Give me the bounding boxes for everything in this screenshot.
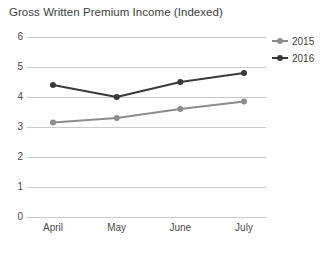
y-axis-tick-label: 4 <box>9 92 23 102</box>
x-axis-tick-label: May <box>107 222 126 234</box>
chart-container: Gross Written Premium Income (Indexed) 0… <box>0 0 322 254</box>
legend-item-2015[interactable]: 2015 <box>272 34 320 48</box>
x-axis-tick-label: April <box>43 222 63 234</box>
data-point-2015-June <box>177 106 183 112</box>
data-point-2016-May <box>114 94 120 100</box>
data-point-2015-July <box>241 99 247 105</box>
legend-marker-icon <box>272 36 288 46</box>
series-line-2015 <box>53 102 244 123</box>
data-point-2015-April <box>50 120 56 126</box>
x-axis-tick-label: July <box>235 222 253 234</box>
legend-label: 2015 <box>292 36 314 47</box>
y-axis-tick-label: 1 <box>9 182 23 192</box>
y-axis-tick-label: 2 <box>9 152 23 162</box>
data-point-2016-April <box>50 82 56 88</box>
chart-legend: 20152016 <box>272 34 320 68</box>
y-axis-tick-labels: 0123456 <box>7 37 23 217</box>
y-axis-tick-label: 5 <box>9 62 23 72</box>
data-point-2015-May <box>114 115 120 121</box>
series-layer <box>27 37 266 217</box>
y-axis-tick-label: 6 <box>9 32 23 42</box>
plot-area <box>27 37 266 217</box>
x-axis-tick-label: June <box>169 222 191 234</box>
gridline <box>27 217 266 218</box>
y-axis-tick-label: 0 <box>9 212 23 222</box>
legend-item-2016[interactable]: 2016 <box>272 51 320 65</box>
y-axis-tick-label: 3 <box>9 122 23 132</box>
data-point-2016-July <box>241 70 247 76</box>
data-point-2016-June <box>177 79 183 85</box>
x-axis-tick-labels: AprilMayJuneJuly <box>27 222 266 238</box>
legend-marker-icon <box>272 53 288 63</box>
chart-title: Gross Written Premium Income (Indexed) <box>9 6 223 18</box>
legend-label: 2016 <box>292 53 314 64</box>
series-line-2016 <box>53 73 244 97</box>
